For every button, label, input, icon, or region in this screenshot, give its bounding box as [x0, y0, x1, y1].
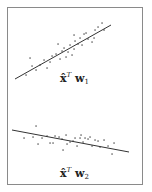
data-point: [65, 56, 66, 57]
data-point: [101, 22, 102, 23]
data-point: [76, 145, 77, 146]
data-point: [52, 142, 53, 143]
data-point: [41, 137, 42, 138]
data-point: [59, 58, 60, 59]
data-point: [63, 47, 64, 48]
transpose-symbol: T: [67, 71, 72, 79]
data-point: [73, 48, 74, 49]
transpose-symbol: T: [67, 166, 72, 174]
data-point: [74, 137, 75, 138]
data-point: [103, 139, 104, 140]
weight-symbol: w: [75, 167, 84, 180]
data-point: [65, 134, 66, 135]
data-point: [43, 59, 44, 60]
data-point: [32, 136, 33, 137]
data-point: [31, 65, 32, 66]
top-scatter-points: [25, 22, 104, 75]
bottom-regression-line: [12, 130, 129, 152]
weight-index: 2: [85, 173, 89, 181]
data-point: [69, 141, 70, 142]
data-point: [94, 29, 95, 30]
data-point: [37, 143, 38, 144]
data-point: [49, 61, 50, 62]
bottom-panel-label: x̂T w2: [60, 166, 89, 181]
data-point: [71, 54, 72, 55]
data-point: [91, 41, 92, 42]
data-point: [35, 125, 36, 126]
data-point: [113, 142, 114, 143]
data-point: [97, 26, 98, 27]
data-point: [79, 37, 80, 38]
bottom-scatter-points: [23, 125, 114, 154]
scatter-plots: [0, 0, 152, 192]
weight-symbol: w: [75, 72, 84, 85]
data-point: [97, 140, 98, 141]
data-point: [74, 40, 75, 41]
weight-index: 1: [85, 78, 89, 86]
data-point: [58, 136, 59, 137]
data-point: [66, 143, 67, 144]
data-point: [69, 44, 70, 45]
data-point: [51, 55, 52, 56]
data-point: [61, 50, 62, 51]
data-point: [89, 136, 90, 137]
data-point: [82, 141, 83, 142]
data-point: [83, 33, 84, 34]
data-point: [85, 32, 86, 33]
data-point: [55, 53, 56, 54]
data-point: [87, 138, 88, 139]
data-point: [29, 57, 30, 58]
data-point: [73, 34, 74, 35]
data-point: [81, 44, 82, 45]
data-point: [25, 74, 26, 75]
data-point: [67, 51, 68, 52]
top-panel-label: x̂T w1: [60, 71, 89, 86]
data-point: [107, 145, 108, 146]
data-point: [23, 137, 24, 138]
data-point: [111, 153, 112, 154]
data-point: [84, 137, 85, 138]
data-point: [62, 149, 63, 150]
data-point: [54, 135, 55, 136]
data-point: [80, 134, 81, 135]
data-point: [94, 139, 95, 140]
data-point: [57, 43, 58, 44]
data-point: [79, 137, 80, 138]
data-point: [49, 142, 50, 143]
data-point: [93, 37, 94, 38]
data-point: [35, 69, 36, 70]
data-point: [46, 67, 47, 68]
